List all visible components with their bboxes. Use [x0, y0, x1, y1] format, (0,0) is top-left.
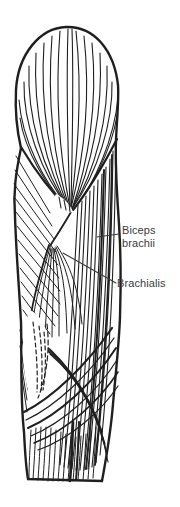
- muscle-illustration: [0, 0, 180, 507]
- anatomy-figure: Biceps brachii Brachialis: [0, 0, 180, 507]
- label-biceps-line2: brachii: [122, 237, 156, 250]
- label-biceps-line1: Biceps: [122, 224, 156, 237]
- label-brachialis: Brachialis: [117, 277, 166, 290]
- label-biceps-brachii: Biceps brachii: [122, 224, 156, 249]
